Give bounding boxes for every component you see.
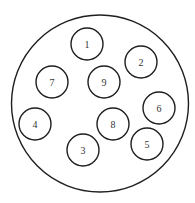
node-label: 7 [50,77,55,88]
node-2: 2 [125,46,157,78]
node-5: 5 [131,128,163,160]
node-label: 4 [33,119,38,130]
node-label: 8 [111,119,116,130]
node-8: 8 [97,108,129,140]
node-label: 6 [157,103,162,114]
node-6: 6 [143,92,175,124]
node-label: 1 [85,39,90,50]
node-4: 4 [19,108,51,140]
node-9: 9 [88,66,120,98]
node-label: 2 [139,57,144,68]
circle-diagram: 123456789 [0,0,195,203]
node-label: 3 [81,145,86,156]
node-3: 3 [67,134,99,166]
node-1: 1 [71,28,103,60]
node-label: 9 [102,77,107,88]
node-label: 5 [145,139,150,150]
node-group: 123456789 [19,28,175,166]
node-7: 7 [36,66,68,98]
